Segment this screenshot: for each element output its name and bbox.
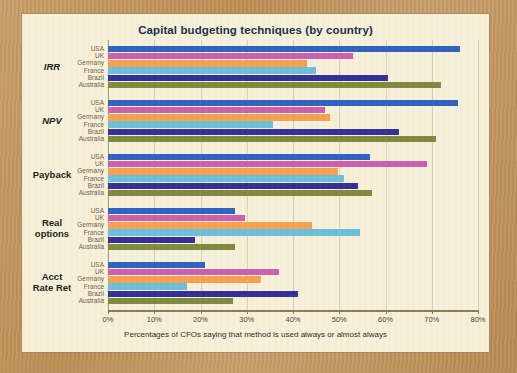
bar-row: Brazil [108, 182, 478, 189]
bar-row: USA [108, 261, 478, 268]
bar-row: France [108, 229, 478, 236]
bar-row: UK [108, 107, 478, 114]
bar-brazil [108, 129, 399, 135]
chart-panel: Capital budgeting techniques (by country… [22, 14, 489, 352]
bar-germany [108, 114, 330, 120]
bar-brazil [108, 237, 195, 243]
group-label: AcctRate Ret [22, 272, 82, 293]
bar-usa [108, 154, 370, 160]
bar-row: France [108, 175, 478, 182]
bar-uk [108, 107, 325, 113]
bar-australia [108, 298, 233, 304]
bar-group: AcctRate RetUSAUKGermanyFranceBrazilAust… [108, 261, 478, 304]
group-label: Realoptions [22, 218, 82, 239]
x-tick-label-0: 0% [103, 315, 114, 324]
x-tick-50 [339, 310, 340, 314]
bar-uk [108, 215, 245, 221]
bar-australia [108, 136, 436, 142]
bar-row: Australia [108, 189, 478, 196]
bar-row: Australia [108, 297, 478, 304]
bar-usa [108, 46, 460, 52]
x-tick-40 [293, 310, 294, 314]
x-axis-label: Percentages of CFOs saying that method i… [22, 330, 489, 339]
x-tick-label-50: 50% [332, 315, 347, 324]
bar-row: Germany [108, 60, 478, 67]
bar-germany [108, 222, 312, 228]
bar-row: Australia [108, 243, 478, 250]
bar-france [108, 121, 273, 127]
category-label-australia: Australia [79, 190, 104, 197]
bar-uk [108, 53, 353, 59]
bar-row: Australia [108, 135, 478, 142]
x-tick-label-30: 30% [239, 315, 254, 324]
chart-title: Capital budgeting techniques (by country… [22, 24, 489, 36]
x-tick-80 [478, 310, 479, 314]
bar-australia [108, 244, 235, 250]
x-tick-60 [386, 310, 387, 314]
gridline-80 [478, 40, 479, 310]
bar-australia [108, 82, 441, 88]
bar-germany [108, 168, 338, 174]
category-label-australia: Australia [79, 136, 104, 143]
plot-area: IRRUSAUKGermanyFranceBrazilAustraliaNPVU… [108, 40, 478, 310]
bar-france [108, 283, 187, 289]
x-tick-20 [201, 310, 202, 314]
bar-row: Germany [108, 222, 478, 229]
x-tick-10 [154, 310, 155, 314]
x-tick-label-10: 10% [147, 315, 162, 324]
x-tick-label-40: 40% [285, 315, 300, 324]
x-tick-0 [108, 310, 109, 314]
x-tick-label-20: 20% [193, 315, 208, 324]
bar-row: France [108, 67, 478, 74]
group-label: Payback [22, 170, 82, 181]
bar-brazil [108, 291, 298, 297]
bar-france [108, 175, 344, 181]
bar-group: IRRUSAUKGermanyFranceBrazilAustralia [108, 45, 478, 88]
bar-row: Brazil [108, 290, 478, 297]
bar-row: UK [108, 269, 478, 276]
group-label: IRR [22, 62, 82, 73]
group-label: NPV [22, 116, 82, 127]
bar-usa [108, 100, 458, 106]
x-tick-label-60: 60% [378, 315, 393, 324]
bar-row: USA [108, 45, 478, 52]
x-tick-label-80: 80% [470, 315, 485, 324]
x-tick-30 [247, 310, 248, 314]
bar-group: PaybackUSAUKGermanyFranceBrazilAustralia [108, 153, 478, 196]
bar-australia [108, 190, 372, 196]
bar-row: France [108, 121, 478, 128]
bar-row: Germany [108, 276, 478, 283]
x-tick-70 [432, 310, 433, 314]
bar-group: RealoptionsUSAUKGermanyFranceBrazilAustr… [108, 207, 478, 250]
bar-brazil [108, 75, 388, 81]
bar-row: Australia [108, 81, 478, 88]
bar-usa [108, 262, 205, 268]
bar-row: UK [108, 53, 478, 60]
bar-germany [108, 276, 261, 282]
bar-row: Brazil [108, 128, 478, 135]
bar-uk [108, 269, 279, 275]
bar-brazil [108, 183, 358, 189]
bar-row: UK [108, 215, 478, 222]
bar-group: NPVUSAUKGermanyFranceBrazilAustralia [108, 99, 478, 142]
category-label-australia: Australia [79, 298, 104, 305]
bar-row: UK [108, 161, 478, 168]
bar-uk [108, 161, 427, 167]
bar-france [108, 67, 316, 73]
bar-row: USA [108, 153, 478, 160]
bar-germany [108, 60, 307, 66]
bar-row: Brazil [108, 74, 478, 81]
bar-usa [108, 208, 235, 214]
bar-france [108, 229, 360, 235]
bar-row: USA [108, 207, 478, 214]
bar-row: Brazil [108, 236, 478, 243]
category-label-australia: Australia [79, 82, 104, 89]
bar-row: Germany [108, 168, 478, 175]
bar-row: USA [108, 99, 478, 106]
bar-row: France [108, 283, 478, 290]
x-tick-label-70: 70% [424, 315, 439, 324]
category-label-australia: Australia [79, 244, 104, 251]
bar-row: Germany [108, 114, 478, 121]
